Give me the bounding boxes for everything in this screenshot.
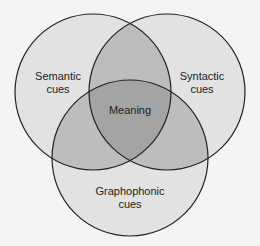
syntactic-label: Syntactic cues: [172, 70, 232, 96]
meaning-label: Meaning: [100, 104, 160, 117]
graphophonic-label: Graphophonic cues: [90, 185, 170, 211]
semantic-label: Semantic cues: [28, 70, 88, 96]
